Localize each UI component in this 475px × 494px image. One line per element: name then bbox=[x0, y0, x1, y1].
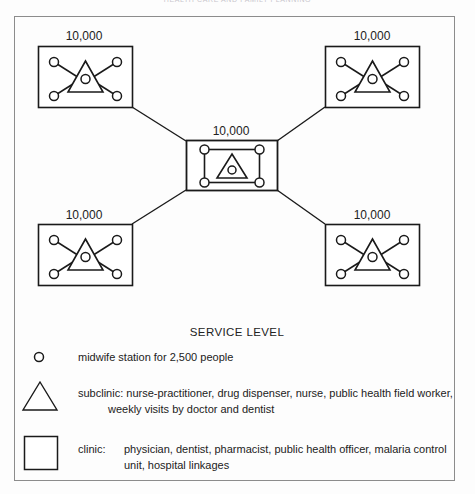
legend-entry-midwife-station[interactable]: midwife station for 2,500 people bbox=[35, 351, 234, 363]
midwife-station-circle bbox=[50, 236, 59, 245]
population-label-top-right: 10,000 bbox=[354, 29, 391, 43]
midwife-station-circle bbox=[255, 145, 264, 154]
population-label-top-left: 10,000 bbox=[66, 29, 103, 43]
unit-center-clinic[interactable]: 10,000 bbox=[187, 124, 278, 191]
legend-entry-subclinic-text-line1: subclinic: nurse-practitioner, drug disp… bbox=[78, 387, 453, 399]
midwife-station-circle bbox=[200, 145, 209, 154]
unit-bottom-right[interactable]: 10,000 bbox=[326, 208, 420, 286]
unit-top-right[interactable]: 10,000 bbox=[326, 29, 420, 108]
midwife-station-circle bbox=[400, 92, 409, 101]
midwife-station-circle bbox=[337, 270, 346, 279]
midwife-station-circle bbox=[113, 270, 122, 279]
center-station-circle bbox=[81, 253, 90, 262]
midwife-station-circle bbox=[400, 270, 409, 279]
midwife-station-circle bbox=[50, 270, 59, 279]
unit-top-left[interactable]: 10,000 bbox=[39, 29, 133, 108]
legend-entry-subclinic-text-line2: weekly visits by doctor and dentist bbox=[107, 403, 274, 415]
population-label-bottom-left: 10,000 bbox=[66, 208, 103, 222]
midwife-station-circle bbox=[337, 236, 346, 245]
midwife-station-circle bbox=[113, 92, 122, 101]
unit-bottom-left[interactable]: 10,000 bbox=[39, 208, 133, 286]
midwife-station-circle bbox=[113, 236, 122, 245]
center-station-circle bbox=[81, 75, 90, 84]
population-label-center: 10,000 bbox=[213, 124, 250, 138]
connector-top-right bbox=[277, 107, 325, 141]
center-station-circle bbox=[228, 166, 236, 174]
midwife-station-circle bbox=[400, 236, 409, 245]
connector-bottom-right bbox=[277, 190, 325, 224]
subclinic-triangle-icon bbox=[23, 382, 57, 410]
legend-entry-clinic-text-line2: unit, hospital linkages bbox=[124, 459, 230, 471]
legend-entry-clinic-label: clinic: bbox=[78, 443, 106, 455]
population-label-bottom-right: 10,000 bbox=[354, 208, 391, 222]
legend: SERVICE LEVEL midwife station for 2,500 … bbox=[23, 326, 453, 471]
clinic-square-icon bbox=[25, 437, 58, 470]
midwife-station-circle bbox=[113, 58, 122, 67]
connector-top-left bbox=[132, 107, 186, 141]
legend-entry-clinic[interactable]: clinic: physician, dentist, pharmacist, … bbox=[25, 437, 447, 472]
midwife-station-circle bbox=[50, 58, 59, 67]
midwife-station-circle bbox=[337, 92, 346, 101]
health-system-diagram: 10,000 10,000 bbox=[0, 0, 475, 494]
legend-heading: SERVICE LEVEL bbox=[190, 326, 285, 338]
connector-bottom-left bbox=[132, 190, 186, 224]
midwife-station-circle bbox=[337, 58, 346, 67]
midwife-station-circle bbox=[50, 92, 59, 101]
figure-page: HEALTH CARE AND FAMILY PLANNING 10,000 bbox=[0, 0, 475, 494]
midwife-station-circle bbox=[400, 58, 409, 67]
midwife-station-circle bbox=[200, 178, 209, 187]
center-station-circle bbox=[368, 75, 377, 84]
midwife-station-circle-icon bbox=[35, 353, 44, 362]
center-station-circle bbox=[368, 253, 377, 262]
legend-entry-subclinic[interactable]: subclinic: nurse-practitioner, drug disp… bbox=[23, 382, 453, 415]
legend-entry-midwife-text: midwife station for 2,500 people bbox=[78, 351, 233, 363]
midwife-station-circle bbox=[255, 178, 264, 187]
legend-entry-clinic-text-line1: physician, dentist, pharmacist, public h… bbox=[124, 443, 447, 455]
